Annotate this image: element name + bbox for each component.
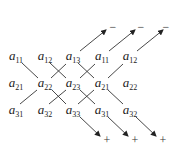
plus-sign-1: +	[104, 134, 111, 146]
element-a31: a31	[9, 103, 24, 119]
element-a33: a33	[66, 103, 81, 119]
element-a11: a11	[9, 49, 23, 65]
element-a22: a22	[38, 76, 53, 92]
diagonal-lines	[0, 0, 176, 157]
element-a32-repeat: a32	[123, 103, 138, 119]
diag-plus-1a	[22, 63, 38, 78]
element-a11-repeat: a11	[95, 49, 109, 65]
minus-sign-3: −	[163, 21, 170, 33]
element-a13: a13	[66, 49, 81, 65]
plus-sign-3: +	[160, 134, 167, 146]
element-a31-repeat: a31	[95, 103, 110, 119]
element-a23: a23	[66, 76, 81, 92]
plus-sign-2: +	[132, 134, 139, 146]
element-a12-repeat: a12	[123, 49, 138, 65]
minus-sign-2: −	[138, 21, 145, 33]
element-a21-repeat: a21	[95, 76, 110, 92]
element-a12: a12	[38, 49, 53, 65]
minus-sign-1: −	[110, 21, 117, 33]
element-a32: a32	[38, 103, 53, 119]
element-a21: a21	[9, 76, 24, 92]
element-a22-repeat: a22	[123, 76, 138, 92]
